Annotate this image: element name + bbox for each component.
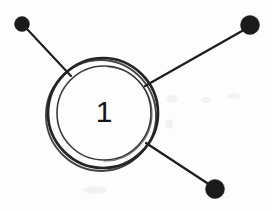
node-dot-top-left[interactable] [15,17,30,32]
node-dot-bottom-right[interactable] [206,180,225,199]
leader-line-bottom-right[interactable] [146,143,207,183]
node-dot-top-right[interactable] [241,16,260,35]
diagram-canvas: 1 [0,0,271,212]
leader-line-top-left[interactable] [27,29,71,76]
callout-diagram: 1 [0,0,271,212]
center-number-label: 1 [96,95,113,128]
leader-line-top-right[interactable] [145,31,242,86]
